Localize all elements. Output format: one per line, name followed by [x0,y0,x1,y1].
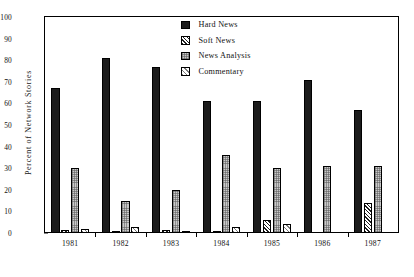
bar [102,58,110,233]
bar [131,227,139,233]
y-tick-label: 100 [0,13,12,22]
bar [61,230,69,233]
bar-chart: Percent of Network Stories 0102030405060… [0,0,414,277]
bar [263,220,271,233]
y-tick-label: 30 [0,164,12,173]
bar [112,231,120,233]
bar [121,201,129,233]
bar [283,224,291,233]
y-tick-label: 60 [0,99,12,108]
bar [182,231,190,233]
x-tick-mark [95,233,96,237]
bar [323,166,331,233]
x-tick-mark [146,233,147,237]
bar [304,80,312,233]
x-tick-label: 1986 [314,239,330,248]
bar [253,101,261,233]
x-tick-mark [247,233,248,237]
bar [152,67,160,233]
bar [81,229,89,233]
y-tick-label: 20 [0,185,12,194]
x-tick-label: 1985 [264,239,280,248]
legend-swatch-icon [181,52,190,61]
x-tick-mark [196,233,197,237]
legend-label: Commentary [199,67,244,76]
y-tick-label: 80 [0,56,12,65]
legend-swatch-icon [181,67,190,76]
legend-swatch-icon [181,36,190,45]
x-tick-mark [348,233,349,237]
legend-item: Commentary [181,64,251,80]
legend-label: News Analysis [199,51,251,60]
bar [213,231,221,233]
bar [354,110,362,233]
legend-item: Soft News [181,33,251,49]
bar [273,168,281,233]
x-tick-label: 1982 [112,239,128,248]
x-tick-label: 1984 [213,239,229,248]
bar [222,155,230,233]
bar [203,101,211,233]
y-tick-label: 50 [0,121,12,130]
legend-item: Hard News [181,17,251,33]
legend-label: Soft News [199,36,236,45]
y-axis-title: Percent of Network Stories [24,33,33,213]
legend-item: News Analysis [181,48,251,64]
x-tick-mark [297,233,298,237]
bar [51,88,59,233]
x-tick-label: 1987 [365,239,381,248]
chart-legend: Hard NewsSoft NewsNews AnalysisCommentar… [181,17,251,79]
x-tick-label: 1983 [163,239,179,248]
bar [232,227,240,233]
y-tick-label: 40 [0,142,12,151]
y-tick-label: 70 [0,77,12,86]
bar [374,166,382,233]
y-tick-label: 0 [0,229,12,238]
x-tick-label: 1981 [62,239,78,248]
bar [71,168,79,233]
bar [364,203,372,233]
bar [172,190,180,233]
bar [162,230,170,233]
legend-label: Hard News [199,20,238,29]
legend-swatch-icon [181,21,190,30]
y-tick-label: 90 [0,34,12,43]
y-tick-label: 10 [0,207,12,216]
